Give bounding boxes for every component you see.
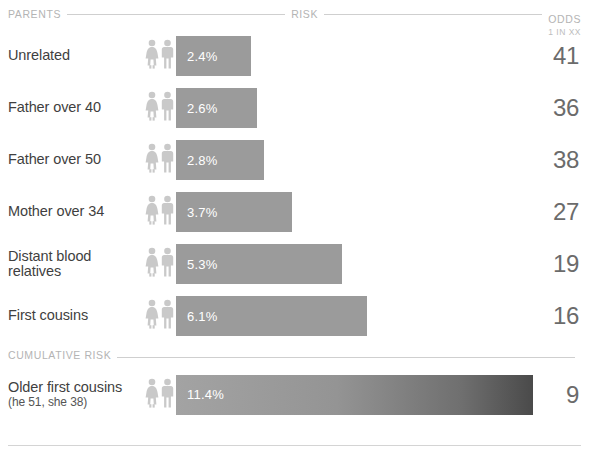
- risk-row: Unrelated2.4%41: [8, 30, 581, 82]
- risk-infographic: PARENTS RISK ODDS 1 IN XX Unrelated2.4%4…: [0, 0, 589, 456]
- row-label-text: Father over 50: [8, 151, 101, 167]
- female-figure-icon: [145, 247, 159, 281]
- bar-track: 11.4%: [176, 375, 533, 415]
- parents-pictogram: [142, 39, 176, 73]
- row-label-text: Unrelated: [8, 47, 70, 63]
- odds-value: 36: [533, 94, 581, 122]
- header-odds-label: ODDS: [548, 13, 581, 25]
- row-label-text: Mother over 34: [8, 203, 104, 219]
- row-label-text: First cousins: [8, 307, 88, 323]
- bar-track: 2.8%: [176, 140, 533, 180]
- risk-row: Father over 502.8%38: [8, 134, 581, 186]
- row-label: Mother over 34: [8, 204, 142, 220]
- risk-value-label: 11.4%: [187, 387, 224, 402]
- risk-rows: Unrelated2.4%41Father over 402.6%36Fathe…: [8, 30, 581, 342]
- bar-track: 3.7%: [176, 192, 533, 232]
- risk-value-label: 2.4%: [187, 49, 217, 64]
- male-figure-icon: [161, 299, 174, 333]
- parents-pictogram: [142, 195, 176, 229]
- bar-track: 2.6%: [176, 88, 533, 128]
- male-figure-icon: [161, 195, 174, 229]
- female-figure-icon: [145, 91, 159, 125]
- risk-value-label: 3.7%: [187, 205, 217, 220]
- row-label: Father over 40: [8, 100, 142, 116]
- male-figure-icon: [161, 143, 174, 177]
- header-parents-label: PARENTS: [8, 9, 61, 20]
- bottom-rule: [8, 445, 581, 446]
- odds-value: 9: [533, 381, 581, 409]
- risk-bar: 5.3%: [176, 244, 342, 284]
- female-figure-icon: [145, 299, 159, 333]
- risk-row: Mother over 343.7%27: [8, 186, 581, 238]
- female-figure-icon: [145, 378, 159, 412]
- bar-track: 5.3%: [176, 244, 533, 284]
- odds-value: 41: [533, 42, 581, 70]
- cumulative-risk-divider: CUMULATIVE RISK: [8, 344, 581, 366]
- risk-bar: 11.4%: [176, 375, 533, 415]
- odds-value: 27: [533, 198, 581, 226]
- row-label: Unrelated: [8, 48, 142, 64]
- risk-value-label: 6.1%: [187, 309, 217, 324]
- parents-pictogram: [142, 91, 176, 125]
- risk-bar: 6.1%: [176, 296, 367, 336]
- risk-bar: 2.4%: [176, 36, 251, 76]
- row-label-text: Father over 40: [8, 99, 101, 115]
- risk-bar: 2.8%: [176, 140, 264, 180]
- header-rule-left: [67, 14, 285, 15]
- row-label: First cousins: [8, 308, 142, 324]
- male-figure-icon: [161, 378, 174, 412]
- female-figure-icon: [145, 195, 159, 229]
- cumulative-risk-label: CUMULATIVE RISK: [8, 350, 111, 361]
- column-header: PARENTS RISK ODDS 1 IN XX: [8, 0, 581, 30]
- parents-pictogram: [142, 299, 176, 333]
- odds-value: 19: [533, 250, 581, 278]
- risk-bar: 2.6%: [176, 88, 257, 128]
- female-figure-icon: [145, 39, 159, 73]
- male-figure-icon: [161, 39, 174, 73]
- risk-row: Distant blood relatives5.3%19: [8, 238, 581, 290]
- male-figure-icon: [161, 91, 174, 125]
- risk-value-label: 2.6%: [187, 101, 217, 116]
- parents-pictogram: [142, 378, 176, 412]
- risk-row: First cousins6.1%16: [8, 290, 581, 342]
- female-figure-icon: [145, 143, 159, 177]
- header-rule-right: [324, 14, 542, 15]
- cumulative-row: Older first cousins(he 51, she 38)11.4%9: [8, 366, 581, 423]
- row-label-text: Distant blood relatives: [8, 248, 91, 280]
- bar-track: 2.4%: [176, 36, 533, 76]
- risk-bar: 3.7%: [176, 192, 292, 232]
- header-risk-label: RISK: [291, 9, 318, 20]
- row-label-text: Older first cousins: [8, 379, 122, 395]
- parents-pictogram: [142, 143, 176, 177]
- cumulative-rule: [117, 357, 575, 358]
- risk-value-label: 2.8%: [187, 153, 217, 168]
- parents-pictogram: [142, 247, 176, 281]
- odds-value: 16: [533, 302, 581, 330]
- risk-value-label: 5.3%: [187, 257, 217, 272]
- odds-value: 38: [533, 146, 581, 174]
- bar-track: 6.1%: [176, 296, 533, 336]
- row-label: Older first cousins(he 51, she 38): [8, 380, 142, 410]
- male-figure-icon: [161, 247, 174, 281]
- risk-row: Father over 402.6%36: [8, 82, 581, 134]
- row-label-subtext: (he 51, she 38): [8, 395, 142, 409]
- row-label: Distant blood relatives: [8, 249, 142, 280]
- row-label: Father over 50: [8, 152, 142, 168]
- cumulative-risk-rows: Older first cousins(he 51, she 38)11.4%9: [8, 366, 581, 423]
